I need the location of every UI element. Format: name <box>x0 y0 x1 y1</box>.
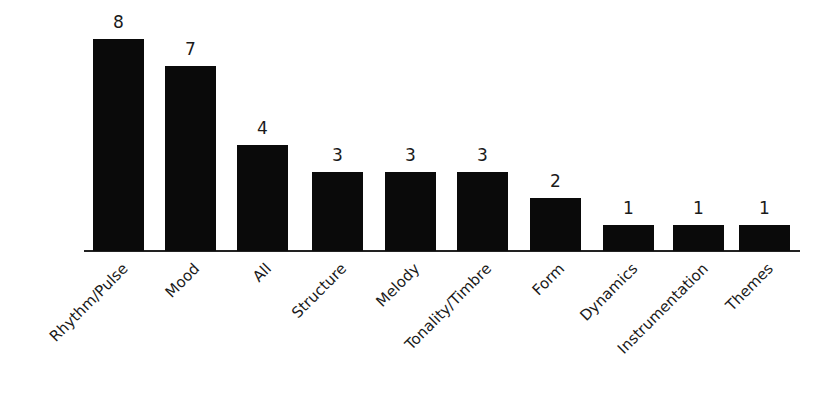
data-label: 4 <box>233 118 293 138</box>
bar-instrumentation <box>673 225 724 252</box>
bar-melody <box>385 172 436 252</box>
x-tick-label: Form <box>528 260 567 299</box>
x-tick-label: Structure <box>288 260 350 322</box>
bar-themes <box>739 225 790 252</box>
bar-tonality-timbre <box>457 172 508 252</box>
data-label: 3 <box>453 145 513 165</box>
data-label: 3 <box>381 145 441 165</box>
x-tick-label: All <box>249 260 275 286</box>
data-label: 3 <box>308 145 368 165</box>
bar-rhythm-pulse <box>93 39 144 251</box>
bar-all <box>237 145 288 251</box>
data-label: 1 <box>735 198 795 218</box>
bar-structure <box>312 172 363 252</box>
data-label: 2 <box>526 171 586 191</box>
x-tick-label: Dynamics <box>576 260 641 325</box>
x-tick-label: Melody <box>372 260 423 311</box>
data-label: 8 <box>89 12 149 32</box>
data-label: 1 <box>599 198 659 218</box>
bar-form <box>530 198 581 251</box>
data-label: 7 <box>161 39 221 59</box>
x-tick-label: Rhythm/Pulse <box>45 260 131 346</box>
data-label: 1 <box>669 198 729 218</box>
bar-dynamics <box>603 225 654 252</box>
bar-chart: 8Rhythm/Pulse7Mood4All3Structure3Melody3… <box>0 0 827 402</box>
x-tick-label: Themes <box>722 260 777 315</box>
x-tick-label: Mood <box>161 260 203 302</box>
bar-mood <box>165 66 216 252</box>
